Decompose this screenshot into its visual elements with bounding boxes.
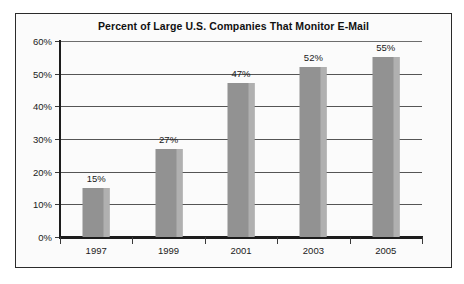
x-axis-tick-label: 2003 xyxy=(303,245,324,256)
bar-slot: 55% xyxy=(350,41,422,237)
bar-value-label: 55% xyxy=(376,42,395,53)
x-axis-divider xyxy=(277,237,278,244)
y-axis-tick-label: 40% xyxy=(33,101,52,112)
plot-area: 0%10%20%30%40%50%60% 15%27%47%52%55% 199… xyxy=(60,41,422,237)
bar[interactable] xyxy=(155,149,182,237)
bar-value-label: 27% xyxy=(159,134,178,145)
bar-slot: 27% xyxy=(132,41,204,237)
chart-title: Percent of Large U.S. Companies That Mon… xyxy=(16,20,451,32)
x-axis-tick-label: 2001 xyxy=(230,245,251,256)
bar[interactable] xyxy=(372,57,399,237)
bar[interactable] xyxy=(300,67,327,237)
x-axis-divider xyxy=(205,237,206,244)
x-axis-tick-label: 2005 xyxy=(375,245,396,256)
y-axis-tick-label: 50% xyxy=(33,68,52,79)
bar[interactable] xyxy=(83,188,110,237)
x-axis-divider xyxy=(350,237,351,244)
x-axis-divider xyxy=(60,237,61,244)
y-axis-tick-label: 20% xyxy=(33,166,52,177)
x-axis-tick-label: 1999 xyxy=(158,245,179,256)
bar[interactable] xyxy=(227,83,254,237)
bar-value-label: 15% xyxy=(87,173,106,184)
bar-slot: 47% xyxy=(205,41,277,237)
bar-slot: 15% xyxy=(60,41,132,237)
x-axis-divider xyxy=(132,237,133,244)
chart-frame: Percent of Large U.S. Companies That Mon… xyxy=(15,13,452,268)
y-axis-tick-label: 30% xyxy=(33,134,52,145)
y-axis-tick-label: 10% xyxy=(33,199,52,210)
y-axis-tick-label: 60% xyxy=(33,36,52,47)
bar-value-label: 52% xyxy=(304,52,323,63)
bar-slot: 52% xyxy=(277,41,349,237)
y-axis-tick-label: 0% xyxy=(38,232,52,243)
x-axis-tick-label: 1997 xyxy=(86,245,107,256)
x-axis-divider xyxy=(422,237,423,244)
bar-value-label: 47% xyxy=(231,68,250,79)
